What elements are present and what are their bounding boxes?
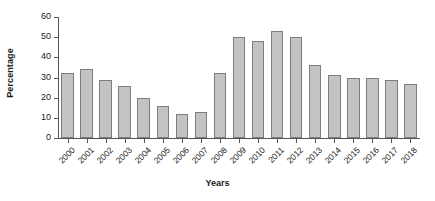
bar <box>271 31 284 138</box>
bar <box>80 69 93 138</box>
bar <box>233 37 246 138</box>
y-axis-title: Percentage <box>2 0 18 145</box>
y-axis-tick-label: 60 <box>41 11 51 21</box>
bar <box>309 65 322 138</box>
x-axis-tick <box>68 139 69 143</box>
x-axis-tick-label: 2018 <box>394 145 419 170</box>
y-axis-tick: 10 <box>54 118 58 119</box>
bar-chart-figure: Percentage 0102030405060 200020012002200… <box>0 0 435 201</box>
bar <box>366 78 379 139</box>
y-axis-tick: 50 <box>54 37 58 38</box>
bar <box>385 80 398 138</box>
x-axis-title: Years <box>0 178 435 188</box>
bar <box>195 112 208 138</box>
x-axis-tick <box>334 139 335 143</box>
y-axis-tick-label: 40 <box>41 51 51 61</box>
x-axis-tick <box>87 139 88 143</box>
bar <box>118 86 131 138</box>
y-axis-line <box>58 17 59 138</box>
y-axis-tick: 60 <box>54 17 58 18</box>
x-axis-tick <box>182 139 183 143</box>
x-axis-tick-label: 2000 <box>51 145 76 170</box>
bar <box>290 37 303 138</box>
plot-area: 0102030405060 20002001200220032004200520… <box>58 12 420 138</box>
bar <box>176 114 189 138</box>
y-axis-tick: 0 <box>54 138 58 139</box>
x-axis-tick <box>239 139 240 143</box>
bar <box>157 106 170 138</box>
bar <box>61 73 74 138</box>
x-axis-tick <box>201 139 202 143</box>
y-axis-tick: 20 <box>54 98 58 99</box>
y-axis-tick-label: 50 <box>41 31 51 41</box>
y-axis-tick-label: 0 <box>46 132 51 142</box>
bar <box>404 84 417 138</box>
bar <box>214 73 227 138</box>
bar <box>347 78 360 139</box>
x-axis-tick <box>410 139 411 143</box>
x-axis-tick <box>372 139 373 143</box>
x-axis-tick <box>315 139 316 143</box>
x-axis-tick <box>144 139 145 143</box>
bar <box>328 75 341 138</box>
x-axis-tick <box>163 139 164 143</box>
x-axis-title-text: Years <box>205 178 229 188</box>
y-axis-tick-label: 10 <box>41 112 51 122</box>
x-axis-tick <box>258 139 259 143</box>
x-axis-tick <box>391 139 392 143</box>
y-axis-title-text: Percentage <box>5 48 15 98</box>
bar <box>252 41 265 138</box>
y-axis-tick: 40 <box>54 57 58 58</box>
x-axis-tick <box>220 139 221 143</box>
x-axis-tick <box>106 139 107 143</box>
y-axis-tick: 30 <box>54 78 58 79</box>
x-axis-tick <box>277 139 278 143</box>
bar <box>137 98 150 138</box>
x-axis-tick <box>353 139 354 143</box>
y-axis-tick-label: 20 <box>41 92 51 102</box>
x-axis-tick <box>125 139 126 143</box>
x-axis-tick <box>296 139 297 143</box>
y-axis-tick-label: 30 <box>41 72 51 82</box>
bar <box>99 80 112 138</box>
